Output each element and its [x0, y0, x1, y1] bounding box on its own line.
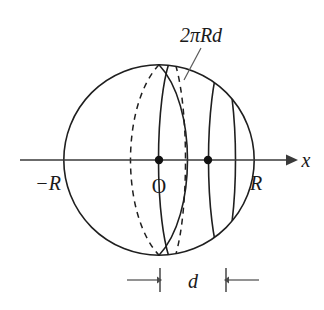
zone-area-label: 2πRd	[180, 24, 223, 46]
width-label: d	[188, 270, 199, 292]
origin-label: O	[152, 175, 166, 197]
radius-left-label: −R	[35, 172, 61, 194]
zone-center-dot	[204, 156, 212, 164]
radius-right-label: R	[249, 172, 262, 194]
figure-root: 2πRd x O R −R d	[0, 0, 324, 310]
sphere-zone-diagram: 2πRd x O R −R d	[0, 0, 324, 310]
x-axis-label: x	[301, 149, 311, 171]
x-axis-arrowhead	[286, 155, 298, 166]
origin-dot	[155, 156, 163, 164]
